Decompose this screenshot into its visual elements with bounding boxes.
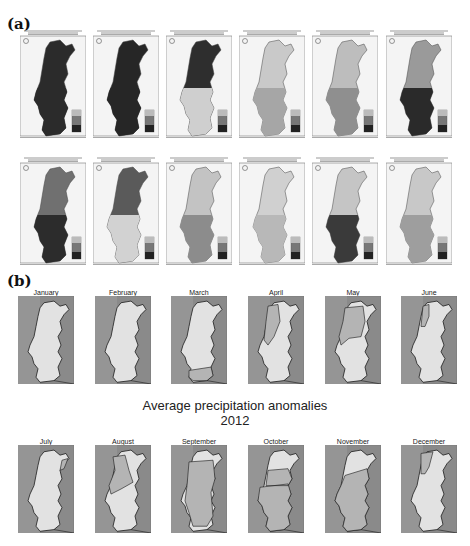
month-label: October xyxy=(247,438,305,445)
anomaly-map-october xyxy=(248,445,304,533)
precipitation-map-a xyxy=(166,157,232,269)
month-label: February xyxy=(94,289,152,296)
month-label: April xyxy=(247,289,305,296)
precipitation-map-a xyxy=(166,30,232,142)
figure-title: Average precipitation anomalies 2012 xyxy=(0,398,470,428)
month-label: March xyxy=(170,289,228,296)
month-label: July xyxy=(17,438,75,445)
month-label: November xyxy=(324,438,382,445)
anomaly-map-december xyxy=(401,445,457,533)
anomaly-map-july xyxy=(18,445,74,533)
precipitation-map-a xyxy=(20,157,86,269)
anomaly-map-august xyxy=(95,445,151,533)
month-label: December xyxy=(400,438,458,445)
anomaly-map-november xyxy=(325,445,381,533)
part-b-label: (b) xyxy=(7,272,32,290)
anomaly-map-june xyxy=(401,296,457,384)
month-label: May xyxy=(324,289,382,296)
precipitation-map-a xyxy=(386,157,452,269)
anomaly-map-february xyxy=(95,296,151,384)
title-line-2: 2012 xyxy=(0,413,470,428)
title-line-1: Average precipitation anomalies xyxy=(0,398,470,413)
anomaly-map-january xyxy=(18,296,74,384)
precipitation-map-a xyxy=(20,30,86,142)
anomaly-map-april xyxy=(248,296,304,384)
precipitation-map-a xyxy=(93,157,159,269)
month-label: January xyxy=(17,289,75,296)
month-label: September xyxy=(170,438,228,445)
precipitation-map-a xyxy=(386,30,452,142)
anomaly-map-may xyxy=(325,296,381,384)
precipitation-map-a xyxy=(93,30,159,142)
precipitation-map-a xyxy=(239,30,305,142)
anomaly-map-september xyxy=(171,445,227,533)
precipitation-map-a xyxy=(312,30,378,142)
precipitation-map-a xyxy=(312,157,378,269)
precipitation-map-a xyxy=(239,157,305,269)
anomaly-map-march xyxy=(171,296,227,384)
month-label: August xyxy=(94,438,152,445)
month-label: June xyxy=(400,289,458,296)
